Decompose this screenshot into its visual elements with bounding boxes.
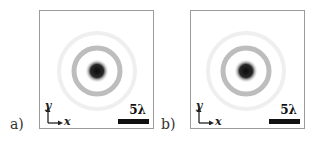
axis-y-label: y <box>45 99 51 112</box>
panel-label-a: a) <box>10 116 24 132</box>
axes-indicator-b: y x <box>196 101 226 125</box>
intensity-panel-a: y x 5λ <box>39 10 154 129</box>
scale-bar <box>269 119 300 124</box>
scale-bar-label: 5λ <box>280 103 297 117</box>
axes-indicator-a: y x <box>45 101 75 125</box>
intensity-panel-b: y x 5λ <box>190 10 305 129</box>
scale-bar <box>118 119 149 124</box>
axis-x-label: x <box>215 115 222 128</box>
panel-label-b: b) <box>161 116 175 132</box>
axis-x-label: x <box>64 115 71 128</box>
axis-y-label: y <box>196 99 202 112</box>
scale-bar-label: 5λ <box>129 103 146 117</box>
